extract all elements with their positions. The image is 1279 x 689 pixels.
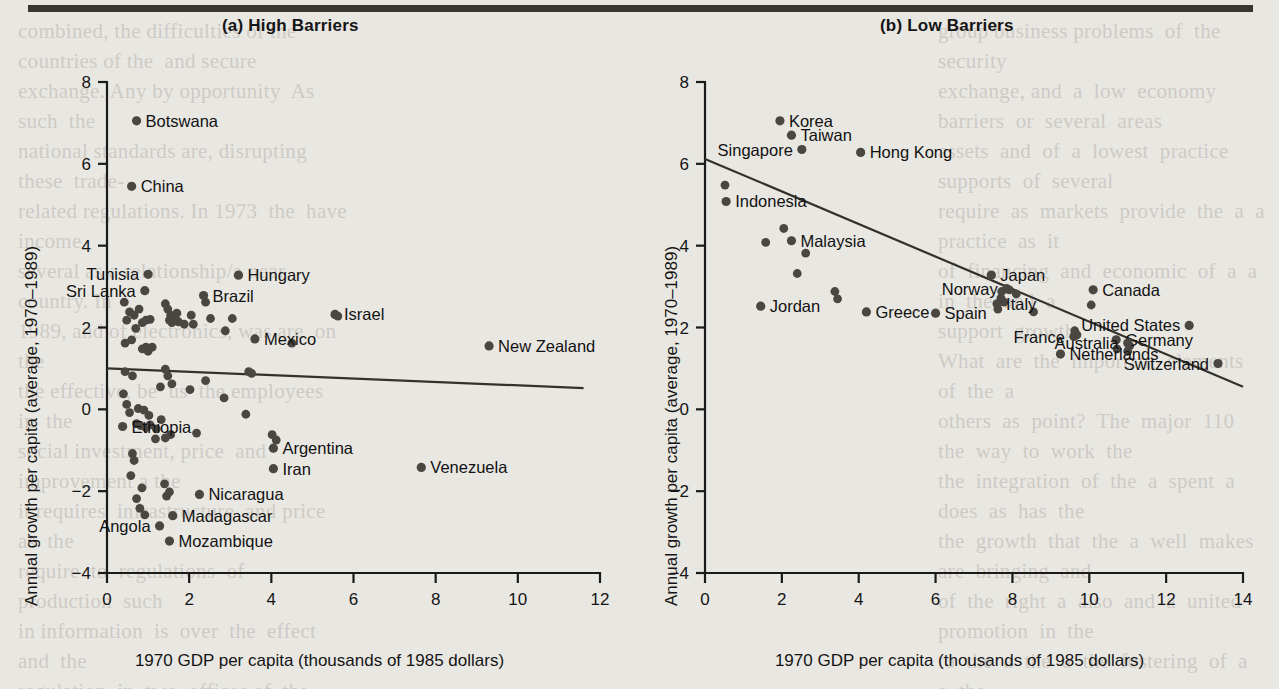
data-point <box>163 371 172 380</box>
data-point-labeled <box>987 271 996 280</box>
data-point-label: Indonesia <box>735 192 807 210</box>
data-point-labeled <box>234 271 243 280</box>
data-point-label: Venezuela <box>430 458 508 476</box>
x-tick-label: 2 <box>777 590 786 609</box>
data-point-label: Sri Lanka <box>66 282 137 300</box>
chart-panel-high-barriers: (a) High Barriers Annual growth per capi… <box>0 0 639 689</box>
data-point-labeled <box>775 116 784 125</box>
data-point-label: Hong Kong <box>870 143 953 161</box>
data-point <box>151 434 160 443</box>
data-point-labeled <box>165 536 174 545</box>
y-tick-label: 2 <box>680 319 689 338</box>
data-point-label: Canada <box>1102 281 1161 299</box>
data-point-label: Japan <box>1000 266 1045 284</box>
x-tick-label: 12 <box>591 590 610 609</box>
data-point-labeled <box>1069 332 1078 341</box>
x-tick-label: 0 <box>102 590 111 609</box>
data-point <box>125 408 134 417</box>
panel-a-plot-area: −4−202468024681012BotswanaChinaTunisiaSr… <box>0 0 639 660</box>
page-top-rule <box>28 5 1253 12</box>
y-tick-label: 6 <box>82 155 91 174</box>
data-point-label: Jordan <box>770 297 820 315</box>
data-point-label: Singapore <box>718 141 793 159</box>
data-point-labeled <box>1089 285 1098 294</box>
data-point <box>1087 301 1096 310</box>
data-point-label: Spain <box>945 304 987 322</box>
data-point <box>119 389 128 398</box>
data-point-label: Norway <box>942 280 999 298</box>
data-point <box>122 316 131 325</box>
data-point-label: Tunisia <box>87 265 140 283</box>
data-point-label: Israel <box>344 305 384 323</box>
x-tick-label: 6 <box>931 590 940 609</box>
data-point <box>833 294 842 303</box>
data-point-label: China <box>141 177 185 195</box>
x-tick-label: 4 <box>854 590 863 609</box>
data-point <box>128 371 137 380</box>
data-point-labeled <box>417 463 426 472</box>
data-point-labeled <box>1056 349 1065 358</box>
data-point <box>165 488 174 497</box>
data-point-label: Botswana <box>146 112 219 130</box>
data-point-label: Greece <box>875 303 929 321</box>
data-point-label: Taiwan <box>800 126 851 144</box>
x-tick-label: 10 <box>1080 590 1099 609</box>
data-point-labeled <box>787 131 796 140</box>
data-point-labeled <box>484 341 493 350</box>
chart-panel-low-barriers: (b) Low Barriers Annual growth per capit… <box>640 0 1279 689</box>
y-tick-label: −2 <box>670 482 689 501</box>
data-point <box>168 380 177 389</box>
data-point <box>132 494 141 503</box>
data-point <box>220 393 229 402</box>
data-point-labeled <box>992 299 1001 308</box>
data-point-labeled <box>250 334 259 343</box>
y-tick-label: 6 <box>680 155 689 174</box>
axis-lines <box>107 82 600 573</box>
data-point-label: Angola <box>99 517 151 535</box>
panel-b-plot-area: −4−20246802468101214KoreaTaiwanSingapore… <box>640 0 1279 660</box>
data-point <box>201 376 210 385</box>
data-point-labeled <box>330 310 339 319</box>
x-tick-label: 12 <box>1157 590 1176 609</box>
data-point-labeled <box>797 145 806 154</box>
x-tick-label: 0 <box>700 590 709 609</box>
x-tick-label: 14 <box>1234 590 1253 609</box>
data-point <box>206 314 215 323</box>
data-point-labeled <box>1213 359 1222 368</box>
data-point-labeled <box>1002 284 1011 293</box>
data-point-labeled <box>931 309 940 318</box>
data-point-labeled <box>118 422 127 431</box>
data-point <box>121 367 130 376</box>
data-point-labeled <box>1185 321 1194 330</box>
data-point <box>122 400 131 409</box>
y-tick-label: 4 <box>82 237 91 256</box>
data-point-labeled <box>127 182 136 191</box>
data-point <box>146 315 155 324</box>
data-point <box>126 471 135 480</box>
data-point-label: Italy <box>1006 295 1037 313</box>
data-point-labeled <box>787 236 796 245</box>
data-point-label: Ethiopia <box>132 418 192 436</box>
data-point-label: Hungary <box>247 266 310 284</box>
data-point <box>180 320 189 329</box>
data-point-labeled <box>856 148 865 157</box>
x-tick-label: 4 <box>267 590 276 609</box>
data-point <box>221 326 230 335</box>
data-point-labeled <box>168 511 177 520</box>
y-tick-label: 0 <box>82 400 91 419</box>
data-point <box>793 269 802 278</box>
data-point-label: Malaysia <box>800 232 866 250</box>
data-point <box>187 311 196 320</box>
data-point <box>801 249 810 258</box>
data-point <box>127 335 136 344</box>
x-tick-label: 8 <box>1008 590 1017 609</box>
data-point-label: France <box>1014 328 1065 346</box>
data-point <box>138 483 147 492</box>
data-point-labeled <box>195 490 204 499</box>
y-tick-label: −4 <box>670 564 689 583</box>
data-point-labeled <box>722 197 731 206</box>
data-point <box>156 382 165 391</box>
data-point-labeled <box>862 307 871 316</box>
y-tick-label: −2 <box>72 482 91 501</box>
x-tick-label: 8 <box>431 590 440 609</box>
